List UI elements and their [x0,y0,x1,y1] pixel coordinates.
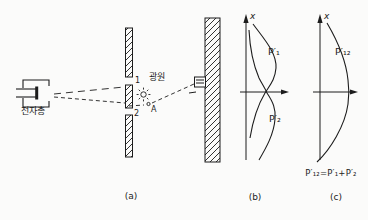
light-source-label: 광원 [144,73,170,82]
electron-gun-label: 전자총 [14,107,52,116]
caption-b: (b) [245,193,265,202]
curve-p1-label: P′₁ [268,47,280,57]
slit-wall [126,28,133,157]
panel-b-axis-label: x [250,12,255,21]
slit-2-label: 2 [134,110,139,118]
electron-path-dashes [54,84,194,106]
caption-a: (a) [121,192,141,201]
sum-formula: P′₁₂=P′₁+P′₂ [293,169,368,178]
curve-p12-label: P′₁₂ [335,47,351,57]
figure-linework [0,0,368,220]
curve-p2-label: P′₂ [269,114,281,124]
point-a-label: A [151,106,156,114]
backstop-screen [205,18,220,162]
caption-c: (c) [326,193,346,202]
slit-1-label: 1 [135,77,140,85]
point-a-marker [147,102,150,105]
light-source-icon [137,88,151,102]
double-slit-experiment-figure: 전자총 광원 1 2 A x x P′₁ P′₂ P′₁₂ P′₁₂=P′₁+P… [0,0,368,220]
electron-gun-icon [16,80,49,107]
panel-c-axis-label: x [324,12,329,21]
